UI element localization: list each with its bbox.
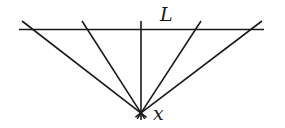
rays-through-point-diagram: L x bbox=[0, 0, 285, 128]
ray-1 bbox=[22, 21, 147, 117]
rays bbox=[22, 21, 262, 120]
ray-4 bbox=[137, 21, 201, 119]
point-x-label: x bbox=[153, 102, 164, 124]
line-L-label: L bbox=[159, 3, 173, 25]
ray-2 bbox=[82, 21, 145, 119]
